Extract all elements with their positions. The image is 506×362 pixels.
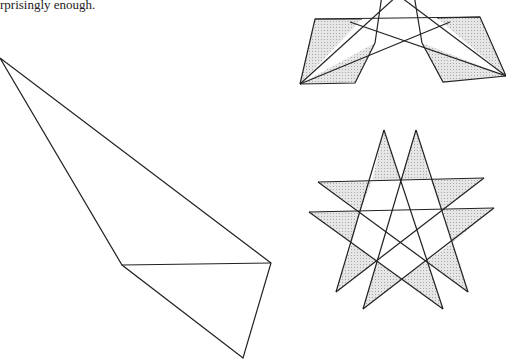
geometry-diagram bbox=[0, 0, 506, 362]
double-pentagram-figure bbox=[309, 130, 494, 309]
kite-figure bbox=[0, 58, 271, 358]
crossed-parallelograms-figure bbox=[300, 0, 506, 84]
